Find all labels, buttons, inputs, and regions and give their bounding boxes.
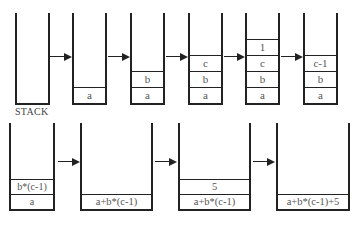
stack-top-3: a b xyxy=(130,13,165,105)
stack-cell: 5 xyxy=(180,179,249,194)
stack-cell: a xyxy=(74,87,105,103)
stack-bottom-2: a+b*(c-1) xyxy=(80,123,153,211)
stack-top-2: a xyxy=(72,13,107,105)
stack-cell: b xyxy=(305,71,336,87)
stack-cell: c xyxy=(190,55,221,71)
stack-cell: a+b*(c-1) xyxy=(180,194,249,209)
stack-cell: a xyxy=(305,87,336,103)
stack-cell: c-1 xyxy=(305,55,336,71)
arrow-icon xyxy=(58,161,78,162)
arrow-icon xyxy=(155,161,175,162)
stack-cell: a+b*(c-1)+5 xyxy=(278,194,348,209)
stack-bottom-3: a+b*(c-1) 5 xyxy=(178,123,251,211)
stack-cell: a xyxy=(11,194,53,209)
stack-top-1 xyxy=(15,13,50,105)
stack-bottom-1: a b*(c-1) xyxy=(9,123,55,211)
stack-label: STACK xyxy=(15,106,48,117)
arrow-icon xyxy=(108,56,128,57)
arrow-icon xyxy=(50,56,70,57)
stack-cell: b xyxy=(247,71,278,87)
arrow-icon xyxy=(281,56,301,57)
arrow-icon xyxy=(166,56,186,57)
stack-top-6: a b c-1 xyxy=(303,13,338,105)
stack-cell: c xyxy=(247,55,278,71)
stack-top-4: a b c xyxy=(188,13,223,105)
stack-cell: b xyxy=(132,71,163,87)
stack-cell: a+b*(c-1) xyxy=(82,194,151,209)
stack-cell: 1 xyxy=(247,39,278,55)
stack-bottom-4: a+b*(c-1)+5 xyxy=(276,123,350,211)
stack-cell: a xyxy=(132,87,163,103)
stack-top-5: a b c 1 xyxy=(245,13,280,105)
stack-cell: a xyxy=(247,87,278,103)
arrow-icon xyxy=(224,56,243,57)
stack-cell: b xyxy=(190,71,221,87)
arrow-icon xyxy=(253,161,273,162)
stack-cell: a xyxy=(190,87,221,103)
stack-cell: b*(c-1) xyxy=(11,179,53,194)
